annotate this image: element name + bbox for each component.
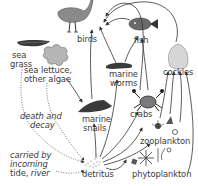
label-cockles: cockles bbox=[163, 68, 193, 77]
label-marine-worms-2: worms bbox=[110, 79, 137, 88]
zooplankton-icon bbox=[152, 116, 178, 135]
label-birds: birds bbox=[77, 35, 97, 44]
label-carried-3-prefix: tide, bbox=[10, 168, 31, 178]
label-carried-3-italic: river bbox=[31, 168, 50, 178]
sea-grass-icon bbox=[17, 40, 50, 46]
label-crabs: crabs bbox=[130, 110, 152, 119]
label-phytoplankton: phytoplankton bbox=[132, 170, 191, 179]
detritus-icon bbox=[85, 158, 100, 167]
food-web-diagram: birds fish sea grass sea lettuce, other … bbox=[0, 0, 198, 186]
fish-icon bbox=[129, 18, 158, 30]
label-fish: fish bbox=[134, 36, 149, 45]
cockle-icon bbox=[168, 44, 188, 69]
marine-worm-icon bbox=[106, 63, 132, 69]
crab-icon bbox=[132, 89, 164, 111]
sea-lettuce-icon bbox=[43, 45, 68, 66]
label-sea-lettuce-2: other algae bbox=[24, 75, 71, 84]
marine-snail-icon bbox=[78, 100, 112, 112]
label-carried-3: tide, river bbox=[10, 169, 50, 178]
bird-icon bbox=[58, 0, 93, 32]
label-detritus: detritus bbox=[82, 170, 114, 179]
phytoplankton-icon bbox=[131, 148, 171, 166]
label-zooplankton: zooplankton bbox=[140, 137, 190, 146]
label-death-decay-2: decay bbox=[30, 121, 55, 130]
label-marine-snails-2: snails bbox=[83, 124, 106, 133]
